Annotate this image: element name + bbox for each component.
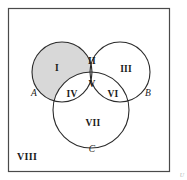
region-label-i: I — [55, 63, 59, 73]
corner-mark-label: U — [180, 172, 185, 178]
set-label-a: A — [30, 88, 37, 98]
region-label-ii: II — [88, 56, 96, 66]
set-label-c: C — [89, 144, 96, 154]
region-label-viii: VIII — [17, 151, 37, 162]
region-label-vi: VI — [108, 89, 119, 99]
region-label-vii: VII — [86, 118, 101, 128]
region-label-iii: III — [120, 64, 132, 74]
venn-diagram-canvas: I II III IV V VI VII VIII A B C U — [0, 0, 187, 180]
region-label-iv: IV — [67, 89, 78, 99]
venn-diagram-figure: I II III IV V VI VII VIII A B C U — [0, 0, 187, 180]
set-label-b: B — [145, 88, 151, 98]
region-label-v: V — [88, 79, 95, 89]
